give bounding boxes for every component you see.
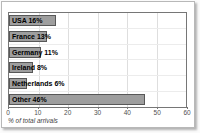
bar-label-germany: Germany 11%: [12, 47, 58, 58]
bar-row-usa: USA 16%: [9, 13, 186, 29]
x-axis: 0102030405060: [8, 107, 187, 117]
bar-label-usa: USA 16%: [12, 15, 42, 26]
x-tick-label-10: 10: [34, 109, 41, 116]
x-tick-label-30: 30: [94, 109, 101, 116]
bar-row-france: France 13%: [9, 29, 186, 45]
plot-area: USA 16%France 13%Germany 11%Ireland 8%Ne…: [8, 12, 187, 108]
bar-row-germany: Germany 11%: [9, 45, 186, 61]
bar-label-france: France 13%: [12, 31, 51, 42]
bar-row-other: Other 46%: [9, 92, 186, 107]
bar-label-other: Other 46%: [12, 94, 47, 105]
x-axis-label: % of total arrivals: [8, 117, 58, 124]
x-tick-label-0: 0: [6, 109, 10, 116]
bar-row-ireland: Ireland 8%: [9, 60, 186, 76]
x-tick-label-40: 40: [124, 109, 131, 116]
bar-row-netherlands: Netherlands 6%: [9, 76, 186, 92]
x-tick-label-50: 50: [154, 109, 161, 116]
bar-label-ireland: Ireland 8%: [12, 62, 47, 73]
bar-label-netherlands: Netherlands 6%: [12, 78, 65, 89]
x-tick-label-60: 60: [183, 109, 190, 116]
bar-rows: USA 16%France 13%Germany 11%Ireland 8%Ne…: [9, 13, 186, 107]
chart-card: USA 16%France 13%Germany 11%Ireland 8%Ne…: [1, 1, 195, 128]
x-tick-label-20: 20: [64, 109, 71, 116]
